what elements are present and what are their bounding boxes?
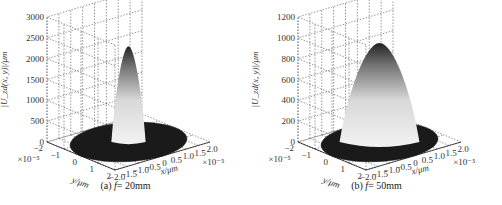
x-tick-label: 2.0	[206, 144, 218, 154]
x-tick-label: 1.0	[183, 151, 195, 161]
caption-value: = 20mm	[117, 180, 151, 191]
x-tick-label: 1.0	[434, 151, 446, 161]
chart-panel-a: 050010001500200025003000|U_zd(x, y)|/μm−…	[0, 0, 251, 205]
caption-value: = 50mm	[368, 180, 402, 191]
x-tick-label: 1.5	[446, 148, 458, 158]
y-tick-label: −1	[301, 150, 311, 160]
caption-b: (b) f= 50mm	[251, 180, 502, 191]
z-tick-label: 500	[31, 116, 45, 126]
z-tick-label: 1000	[277, 33, 296, 43]
z-axis-label: |U_zd(x, y)|/μm	[0, 51, 9, 107]
z-tick-label: 200	[282, 116, 296, 126]
surface-plot-a: 050010001500200025003000|U_zd(x, y)|/μm−…	[0, 0, 251, 205]
surface-plot-b: 020040060080010001200|U_zd(x, y)|/μm−2−1…	[251, 0, 502, 205]
caption-prefix: (a)	[100, 180, 111, 191]
y-scale-label: ×10⁻⁵	[268, 154, 290, 164]
y-tick-label: −2	[33, 143, 43, 153]
z-tick-label: 1000	[26, 95, 45, 105]
y-tick-label: 0	[324, 157, 329, 167]
x-tick-label: 1.5	[195, 148, 207, 158]
surface-peak	[340, 43, 420, 147]
chart-panel-b: 020040060080010001200|U_zd(x, y)|/μm−2−1…	[251, 0, 502, 205]
z-tick-label: 400	[282, 95, 296, 105]
x-scale-label: ×10⁻⁵	[453, 157, 475, 167]
y-tick-label: −2	[284, 143, 294, 153]
z-tick-label: 2500	[26, 33, 45, 43]
y-scale-label: ×10⁻⁵	[17, 154, 39, 164]
caption-prefix: (b)	[351, 180, 363, 191]
caption-a: (a) f= 20mm	[0, 180, 251, 191]
z-tick-label: 600	[282, 75, 296, 85]
z-tick-label: 1200	[277, 12, 296, 22]
z-tick-label: 2000	[26, 54, 45, 64]
x-tick-label: 2.0	[457, 144, 469, 154]
y-tick-label: 0	[73, 157, 78, 167]
z-axis-label: |U_zd(x, y)|/μm	[251, 51, 260, 107]
x-scale-label: ×10⁻⁵	[202, 157, 224, 167]
z-tick-label: 800	[282, 54, 296, 64]
y-tick-label: 1	[90, 164, 95, 174]
y-tick-label: 1	[341, 164, 346, 174]
z-tick-label: 1500	[26, 75, 45, 85]
y-tick-label: −1	[50, 150, 60, 160]
surface-peak	[111, 46, 145, 144]
z-tick-label: 3000	[26, 12, 45, 22]
